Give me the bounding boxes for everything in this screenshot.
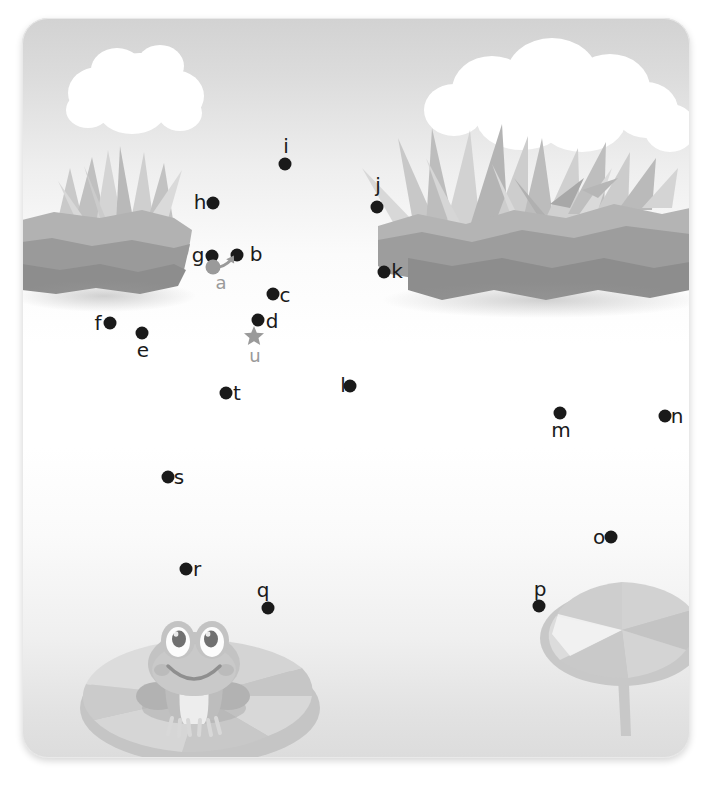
puzzle-dot-label-m: m (551, 420, 570, 440)
dot-to-dot-layer: bcdefghijklmnopqrstau (22, 18, 690, 758)
puzzle-dot-f[interactable] (104, 317, 117, 330)
puzzle-dot-label-c: c (280, 285, 291, 305)
puzzle-dot-label-t: t (233, 383, 241, 403)
puzzle-dot-label-r: r (193, 559, 201, 579)
puzzle-dot-j[interactable] (371, 201, 384, 214)
puzzle-dot-t[interactable] (220, 387, 233, 400)
end-marker-label: u (249, 347, 260, 365)
puzzle-dot-label-g: g (192, 245, 205, 265)
puzzle-dot-k[interactable] (378, 266, 391, 279)
puzzle-dot-label-i: i (283, 136, 289, 156)
puzzle-dot-label-e: e (137, 340, 149, 360)
puzzle-card: bcdefghijklmnopqrstau (22, 18, 690, 758)
worksheet-page: bcdefghijklmnopqrstau (0, 0, 713, 787)
puzzle-dot-r[interactable] (180, 563, 193, 576)
puzzle-dot-label-l: l (340, 375, 346, 395)
puzzle-dot-o[interactable] (605, 531, 618, 544)
puzzle-dot-q[interactable] (262, 602, 275, 615)
puzzle-dot-label-k: k (391, 261, 403, 281)
puzzle-dot-label-b: b (250, 244, 263, 264)
puzzle-dot-label-s: s (174, 467, 184, 487)
puzzle-dot-i[interactable] (279, 158, 292, 171)
puzzle-dot-label-h: h (194, 192, 207, 212)
puzzle-dot-c[interactable] (267, 288, 280, 301)
start-marker-label: a (215, 274, 226, 292)
puzzle-dot-s[interactable] (162, 471, 175, 484)
puzzle-dot-label-q: q (257, 580, 270, 600)
puzzle-dot-label-j: j (375, 175, 381, 195)
puzzle-dot-label-n: n (671, 406, 684, 426)
puzzle-dot-label-p: p (534, 579, 547, 599)
puzzle-dot-n[interactable] (659, 410, 672, 423)
puzzle-dot-label-o: o (593, 527, 605, 547)
puzzle-dot-h[interactable] (207, 197, 220, 210)
puzzle-dot-label-d: d (266, 311, 279, 331)
puzzle-dot-label-f: f (94, 313, 101, 333)
puzzle-dot-p[interactable] (533, 600, 546, 613)
